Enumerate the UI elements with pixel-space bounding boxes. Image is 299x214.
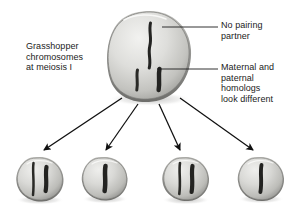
daughter-cell-1-chromosome-thin xyxy=(33,163,34,195)
parent-cell xyxy=(107,11,191,106)
label-maternal-paternal-homologs: Maternal and paternal homologs look diff… xyxy=(221,62,274,104)
daughter-cell-4 xyxy=(238,157,284,204)
daughter-cell-1-chromosome-thick xyxy=(46,167,47,191)
label-no-pairing-partner: No pairing partner xyxy=(221,20,263,41)
chromosome-maternal-homolog xyxy=(137,70,138,90)
arrow-to-cell-1 xyxy=(44,98,122,150)
daughter-cell-2-chromosome-thick xyxy=(105,166,106,191)
label-grasshopper-chromosomes: Grasshopper chromosomes at meiosis I xyxy=(26,41,83,73)
daughter-cell-3 xyxy=(162,157,210,205)
daughter-cell-3-body xyxy=(164,158,208,200)
arrow-to-cell-4 xyxy=(180,98,253,150)
daughter-cell-3-chromosome-thin xyxy=(179,163,180,194)
arrow-to-cell-3 xyxy=(159,104,180,150)
daughter-cell-3-chromosome-thick xyxy=(192,166,193,192)
chromosome-paternal-homolog xyxy=(159,69,160,90)
daughter-cell-1-body xyxy=(17,158,62,200)
daughter-cell-2 xyxy=(82,157,128,204)
daughter-cell-1 xyxy=(16,157,64,205)
daughter-cell-4-chromosome xyxy=(260,165,261,192)
chromosome-unpaired-x xyxy=(149,23,150,68)
arrow-to-cell-2 xyxy=(106,104,138,150)
figure-root: Grasshopper chromosomes at meiosis I No … xyxy=(0,0,299,214)
